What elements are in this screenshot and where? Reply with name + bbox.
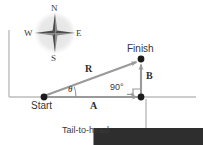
compass-west-label: W <box>24 29 33 38</box>
finish-point-dot <box>138 56 145 63</box>
compass-north-label: N <box>51 4 58 13</box>
compass-east-label: E <box>76 29 82 38</box>
vector-diagram: N E S W Finish Start R A B θ 90° Tail-to… <box>0 0 203 145</box>
vector-b-label: B <box>146 71 153 81</box>
compass-rose-graphic <box>34 12 76 54</box>
vector-b-overarrow-icon <box>146 71 203 145</box>
vector-a-label: A <box>90 101 97 111</box>
tail-to-head-label: Tail-to-head <box>62 126 109 135</box>
start-label: Start <box>31 101 52 111</box>
right-angle-label: 90° <box>110 83 124 92</box>
vector-r-label: R <box>85 64 92 74</box>
theta-arc <box>74 87 76 97</box>
compass-south-label: S <box>51 54 56 63</box>
finish-label: Finish <box>127 44 154 54</box>
theta-label: θ <box>68 85 72 94</box>
